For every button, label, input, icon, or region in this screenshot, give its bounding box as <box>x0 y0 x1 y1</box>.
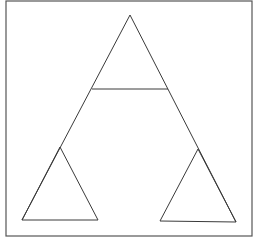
triangle-figure <box>22 15 236 222</box>
left-small-triangle <box>22 147 98 220</box>
diagram-frame <box>6 1 252 236</box>
right-small-triangle <box>160 149 236 222</box>
diagram-canvas <box>0 0 255 241</box>
